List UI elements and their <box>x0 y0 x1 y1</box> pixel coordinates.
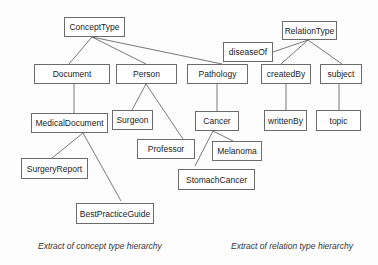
node-subject: subject <box>320 64 362 84</box>
node-label: Cancer <box>203 116 230 126</box>
node-professor: Professor <box>137 139 195 159</box>
node-label: StomachCancer <box>186 175 247 185</box>
node-person: Person <box>116 64 177 84</box>
node-label: Melanoma <box>217 146 257 156</box>
node-medical-document: MedicalDocument <box>31 113 108 133</box>
node-label: ConceptType <box>69 22 119 32</box>
node-disease-of: diseaseOf <box>223 42 273 62</box>
node-label: writtenBy <box>268 116 303 126</box>
node-melanoma: Melanoma <box>212 141 262 161</box>
node-pathology: Pathology <box>187 64 248 84</box>
node-label: Pathology <box>199 69 237 79</box>
node-surgery-report: SurgeryReport <box>21 158 88 179</box>
node-label: createdBy <box>267 69 305 79</box>
node-label: MedicalDocument <box>35 118 103 128</box>
node-label: Professor <box>148 144 184 154</box>
node-label: BestPracticeGuide <box>80 209 150 219</box>
node-cancer: Cancer <box>195 111 239 131</box>
node-document: Document <box>34 64 110 84</box>
node-written-by: writtenBy <box>264 110 307 131</box>
node-stomach-cancer: StomachCancer <box>178 169 255 190</box>
node-label: Document <box>53 69 92 79</box>
node-created-by: createdBy <box>261 64 311 84</box>
node-surgeon: Surgeon <box>112 110 153 130</box>
node-label: diseaseOf <box>229 47 267 57</box>
diagram-canvas: ConceptType Document Person Pathology Me… <box>0 0 378 265</box>
node-label: RelationType <box>285 26 335 36</box>
node-label: Person <box>133 69 160 79</box>
node-relation-type: RelationType <box>282 21 337 40</box>
node-best-practice-guide: BestPracticeGuide <box>76 203 154 224</box>
concept-hierarchy-caption: Extract of concept type hierarchy <box>38 241 162 251</box>
node-label: topic <box>330 116 348 126</box>
node-concept-type: ConceptType <box>64 17 125 37</box>
relation-hierarchy-caption: Extract of relation type hierarchy <box>231 241 353 251</box>
node-label: Surgeon <box>116 115 148 125</box>
node-topic: topic <box>316 110 361 131</box>
node-label: subject <box>328 69 355 79</box>
node-label: SurgeryReport <box>27 164 82 174</box>
